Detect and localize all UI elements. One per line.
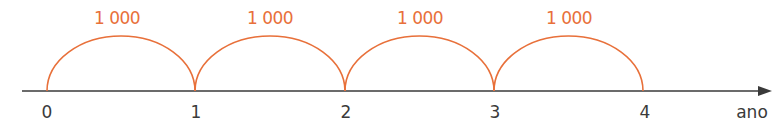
axis-label: ano <box>736 104 768 121</box>
jump-arc-2 <box>345 36 494 91</box>
tick-label: 0 <box>42 104 53 121</box>
tick-label: 2 <box>341 104 352 121</box>
jump-label: 1 000 <box>397 10 443 27</box>
tick-label: 1 <box>191 104 202 121</box>
jump-arc-0 <box>47 36 195 91</box>
tick-label: 3 <box>490 104 501 121</box>
jump-arc-3 <box>494 36 643 91</box>
jump-label: 1 000 <box>546 10 592 27</box>
jump-label: 1 000 <box>247 10 293 27</box>
jump-arc-1 <box>195 36 345 91</box>
axis-arrow-icon <box>758 86 772 96</box>
tick-label: 4 <box>640 104 651 121</box>
jump-label: 1 000 <box>94 10 140 27</box>
